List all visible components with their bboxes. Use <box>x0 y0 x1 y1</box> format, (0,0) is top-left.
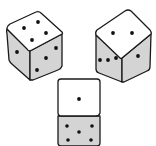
right-die <box>96 10 152 82</box>
dice-illustration <box>0 0 156 146</box>
bottom-die <box>58 79 100 146</box>
left-die <box>7 12 63 80</box>
